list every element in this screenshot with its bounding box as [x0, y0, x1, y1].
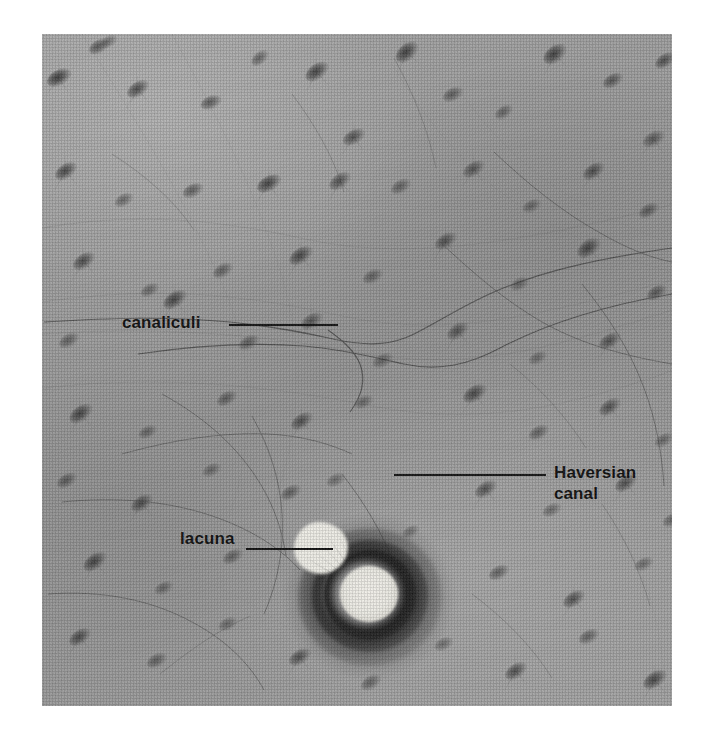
figure-page: canaliculi Haversian canal lacuna [0, 0, 707, 744]
micrograph-plate: canaliculi Haversian canal lacuna [42, 34, 672, 706]
film-grain [42, 34, 672, 706]
